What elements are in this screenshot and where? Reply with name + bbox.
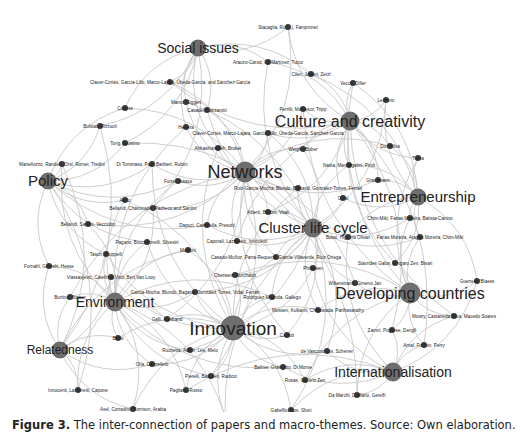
paper-node: Bulsiaz, Rizzuoli xyxy=(83,123,116,129)
paper-node: Gabelfio, Dos, Sfuni xyxy=(271,407,312,412)
edge xyxy=(60,350,133,409)
paper-node: Perrilli, Montesor, Tripp xyxy=(280,106,327,112)
paper-label: Dos Silva xyxy=(380,144,400,149)
paper-label: Fornahl, Goroshi, Hesse xyxy=(24,264,74,269)
paper-label: Farias Moreira, Aragão Moreira, Chim-Mik… xyxy=(377,235,464,240)
paper-node: Corless xyxy=(117,105,133,111)
paper-label: Phillipsen xyxy=(303,266,323,271)
paper-label: Bellandi, Chaminade, Pacheco and Santini xyxy=(109,206,196,211)
theme-label: Relatedness xyxy=(27,343,94,357)
paper-node: Herrera xyxy=(178,124,194,130)
paper-label: Ruchetta, Adder, Lee, Melo xyxy=(162,348,218,353)
paper-node: Tuma xyxy=(412,155,424,161)
paper-label: Casado-Muñoz, Parra-Requena, García-Vill… xyxy=(211,255,342,260)
theme-label: Culture and creativity xyxy=(275,113,425,130)
theme-node-cluster: Cluster life cycle xyxy=(258,219,367,237)
paper-label: Da Marchi, Di Mario, Gereffi xyxy=(329,393,386,398)
paper-node: Aiello xyxy=(119,197,131,203)
theme-label: Cluster life cycle xyxy=(258,219,367,236)
edge xyxy=(115,302,186,390)
paper-label: Zamni, Pugliese, Dengfi xyxy=(368,328,417,333)
paper-label: Ruiz-Garcia-Mocha, Blundo, Bignardi, Gon… xyxy=(234,186,362,191)
paper-label: de Vasconcelos, Scherrer xyxy=(301,349,354,354)
paper-node: Di Tommaso, Paci, Barbieri, Rubini xyxy=(117,161,188,167)
paper-node: Ruchetta, Adder, Lee, Melo xyxy=(162,347,218,353)
paper-label: Mossen, Kulkarni, Chinowada, Parthasarat… xyxy=(272,308,365,313)
paper-label: Mowry, Castaneda Silva, Macedo Soares xyxy=(412,314,497,319)
paper-node: Cilen, Jodlen, Zetzl xyxy=(291,71,330,77)
paper-label: Bulsiaz, Rizzuoli xyxy=(83,124,116,129)
paper-node: Fornahl, Goroshi, Hesse xyxy=(24,263,74,269)
paper-label: Arnal, Fishbin, Perry xyxy=(403,343,445,348)
paper-label: Martellozzo, Randelli, Orsi, Romei, Tred… xyxy=(19,162,105,167)
paper-label: Claver-Cortés, García-Lillo, Marco-Lajar… xyxy=(90,79,251,85)
paper-node: Nasta, Mannegalini, Piroli xyxy=(323,162,375,168)
paper-label: Cainoti xyxy=(280,333,294,338)
paper-node: Stacaglia, Ro(…), Fampronet xyxy=(258,24,318,30)
edge xyxy=(245,27,291,172)
theme-node-innovation: Innovation xyxy=(189,316,277,340)
paper-label: Caporali, Lazzeretti, Innocenti xyxy=(207,239,268,244)
paper-node: Abbasiharofteh, Broker xyxy=(195,145,242,151)
paper-node: Caporali, Lazzeretti, Innocenti xyxy=(207,238,268,244)
paper-label: Axel, Corradini, Morrison, Arabia xyxy=(100,407,167,412)
paper-label: Innocenti, Lazzeretti, Capone xyxy=(48,388,108,393)
paper-label: Oberweis, Burchardt xyxy=(214,273,257,278)
edge xyxy=(313,228,336,351)
paper-node: Innocenti, Lazzeretti, Capone xyxy=(48,387,108,393)
paper-label: Dapuci, Casabella, Presutti xyxy=(179,223,234,228)
theme-node-relatedness: Relatedness xyxy=(27,342,94,358)
paper-label: Pierelli, Basstieri, Radicio xyxy=(185,374,237,379)
paper-node: Casado-Muñoz, Parra-Requena, García-Vill… xyxy=(211,254,342,260)
paper-node: Stavrides Galos, Gingaro Zen, Bisari xyxy=(358,260,433,266)
paper-node: Viassavjevic, Catellnos Vitto, Bert Van … xyxy=(67,274,156,280)
edge xyxy=(152,164,233,328)
paper-label: Olla, Cappelletti xyxy=(136,362,168,367)
paper-node: Bellandi, Santini, Vecciolini xyxy=(61,221,116,227)
paper-node: Bellandi, Chaminade, Pacheco and Santini xyxy=(109,205,196,211)
edge xyxy=(350,121,378,180)
theme-node-environment: Environment xyxy=(76,293,155,311)
theme-node-developing: Developing countries xyxy=(335,283,484,303)
figure-caption: Figure 3. The inter-connection of papers… xyxy=(12,418,516,432)
paper-label: Nasta, Mannegalini, Piroli xyxy=(323,163,375,168)
paper-label: Pagliaro, Russo xyxy=(170,388,203,393)
paper-label: Guerrero, Blaess xyxy=(460,279,495,284)
paper-node: Mancini xyxy=(180,247,196,253)
paper-label: Claver-Cortés, Marco-Lajara, García-Lill… xyxy=(192,130,344,136)
theme-label: Policy xyxy=(28,172,69,189)
paper-label: Vecco, Diller xyxy=(340,81,366,86)
paper-node: Claver-Cortés, García-Lillo, Marco-Lajar… xyxy=(90,79,251,85)
paper-label: Mamo, Giggeri xyxy=(171,100,201,105)
paper-label: Leorano xyxy=(378,98,395,103)
paper-node: Tong, Giustino xyxy=(110,140,140,146)
paper-node: Furrer, Isaacs xyxy=(164,178,193,184)
paper-node: Galli, Abisband xyxy=(152,316,183,322)
paper-node: Corsi xyxy=(338,195,349,201)
paper-label: Viassavjevic, Catellnos Vitto, Bert Van … xyxy=(67,275,156,280)
paper-node: Guerrero, Blaess xyxy=(460,278,495,284)
edge xyxy=(287,228,317,335)
paper-label: Abbasiharofteh, Broker xyxy=(195,146,242,151)
theme-label: Innovation xyxy=(189,318,277,339)
paper-node: Martellozzo, Randelli, Orsi, Romei, Tred… xyxy=(19,161,105,167)
theme-node-policy: Policy xyxy=(28,172,69,189)
paper-node: Chim-Miki, Farias Moreira, Batista-Canin… xyxy=(367,215,453,221)
paper-label: Corsi xyxy=(338,196,349,201)
theme-label: Developing countries xyxy=(335,285,484,302)
paper-label: Grassmann xyxy=(366,178,390,183)
paper-label: Galli, Abisband xyxy=(152,317,183,322)
paper-node: Arnal, Fishbin, Perry xyxy=(403,342,445,348)
paper-node: Tasch, Giuppelli xyxy=(90,251,122,257)
paper-label: Mancini xyxy=(180,248,196,253)
paper-label: Perrilli, Montesor, Tripp xyxy=(280,107,327,112)
caption-label: Figure 3. xyxy=(12,418,70,432)
paper-node: Grassmann xyxy=(366,177,390,183)
paper-node: Bellsi xyxy=(113,335,124,341)
paper-node: Mamo, Giggeri xyxy=(171,99,201,105)
caption-text: The inter-connection of papers and macro… xyxy=(70,418,516,432)
paper-label: Gabelfio, Dos, Sfuni xyxy=(271,408,312,412)
paper-node: Phillipsen xyxy=(303,265,323,271)
edge xyxy=(167,172,245,319)
paper-node: Oberweis, Burchardt xyxy=(214,272,257,278)
